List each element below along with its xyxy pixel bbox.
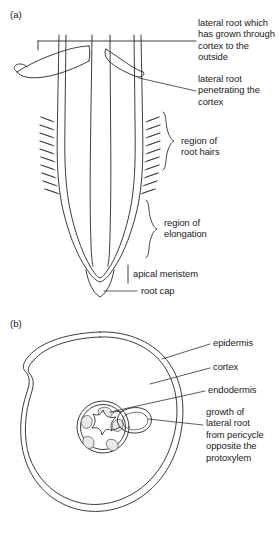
leader-lateral-root-penetrating xyxy=(139,78,196,91)
brace-elongation xyxy=(146,200,157,258)
panel-label-a: (a) xyxy=(10,9,22,20)
label-lateral-root-grown-through-cortex: lateral root which has grown through cor… xyxy=(198,17,278,63)
panel-b-root-transverse xyxy=(21,332,210,511)
label-endodermis: endodermis xyxy=(208,384,279,395)
root-hairs-left xyxy=(40,117,59,194)
label-root-cap: root cap xyxy=(141,285,221,296)
phloem-patch-bottom-left xyxy=(83,436,94,448)
brace-root-hairs xyxy=(163,112,174,170)
root-hairs-right xyxy=(141,117,160,194)
panel-label-b: (b) xyxy=(10,318,22,329)
leader-cortex xyxy=(150,368,210,384)
label-epidermis: epidermis xyxy=(213,337,279,348)
label-lateral-root-penetrating-cortex: lateral root penetrating the cortex xyxy=(198,73,278,107)
leader-lateral-root-growth xyxy=(148,419,203,425)
phloem-patch-left xyxy=(81,415,92,428)
label-region-of-root-hairs: region of root hairs xyxy=(181,135,273,158)
panel-a-root-longitudinal xyxy=(14,35,196,297)
leader-endodermis xyxy=(110,391,205,412)
label-apical-meristem: apical meristem xyxy=(133,268,245,279)
label-cortex: cortex xyxy=(213,361,279,372)
root-anatomy-figure: (a) (b) lateral root which has grown thr… xyxy=(0,0,279,540)
label-region-of-elongation: region of elongation xyxy=(164,217,260,240)
leader-epidermis xyxy=(162,344,210,359)
label-growth-of-lateral-root: growth of lateral root from pericycle op… xyxy=(206,406,279,463)
